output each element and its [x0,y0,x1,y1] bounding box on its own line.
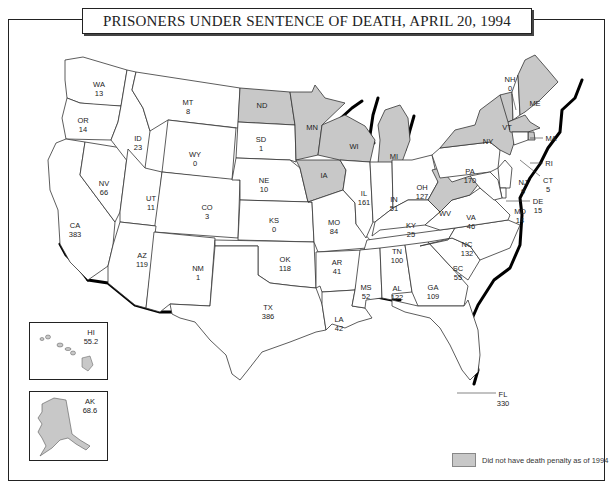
label-RI-abbr: RI [545,159,553,168]
label-AL-value: 122 [391,293,404,302]
label-MD-value: 14 [516,216,524,225]
label-MT-abbr: MT [183,98,194,107]
label-NM-value: 1 [196,273,200,282]
label-MS-value: 52 [362,292,370,301]
label-PA-value: 170 [464,176,477,185]
label-WI-abbr: WI [349,142,358,151]
label-UT-value: 11 [147,203,155,212]
label-TN-abbr: TN [392,247,402,256]
label-NC-abbr: NC [462,240,473,249]
label-WY-abbr: WY [189,150,201,159]
label-NH-value: 0 [508,84,512,93]
label-DE-value: 15 [534,206,542,215]
label-NY-abbr: NY [483,137,493,146]
state-NM[interactable] [146,232,215,312]
label-CO-value: 3 [205,212,209,221]
label-OR-value: 14 [79,125,87,134]
state-WI[interactable] [318,115,375,162]
label-WA-value: 13 [95,89,103,98]
label-MS-abbr: MS [360,283,371,292]
label-UT-abbr: UT [146,194,156,203]
label-HI-abbr: HI [87,328,95,337]
label-NC-value: 132 [461,249,474,258]
label-NJ-abbr: NJ [518,178,527,187]
label-MA-abbr: MA [545,134,556,143]
state-CO[interactable] [154,172,240,238]
label-VA-value: 46 [467,222,475,231]
label-SC-abbr: SC [453,264,464,273]
label-AR-abbr: AR [332,258,343,267]
label-TX-abbr: TX [263,303,273,312]
label-KS-abbr: KS [269,216,279,225]
label-VA-abbr: VA [466,213,475,222]
state-RI[interactable] [528,132,535,140]
label-OK-value: 118 [279,264,291,273]
label-MD-abbr: MD [514,207,526,216]
label-ME-abbr: ME [529,99,540,108]
label-OH-abbr: OH [416,183,427,192]
label-WA-abbr: WA [93,80,105,89]
label-NE-abbr: NE [259,176,269,185]
label-IL-value: 161 [358,198,371,207]
label-AR-value: 41 [333,267,341,276]
label-AL-abbr: AL [392,284,401,293]
label-ID-abbr: ID [134,134,142,143]
label-OH-value: 127 [416,192,429,201]
label-HI-value: 55.2 [84,337,99,346]
state-NE[interactable] [232,158,308,202]
label-FL-abbr: FL [499,390,508,399]
label-AK-abbr: AK [85,397,95,406]
label-MI-abbr: MI [390,152,398,161]
label-NM-abbr: NM [192,264,204,273]
legend-label: Did not have death penalty as of 1994 [482,456,608,465]
label-KS-value: 0 [272,225,276,234]
label-CO-abbr: CO [201,203,212,212]
label-KY-value: 25 [407,230,415,239]
label-CA-abbr: CA [70,221,80,230]
label-PA-abbr: PA [465,167,474,176]
label-ND-abbr: ND [257,101,268,110]
label-CT-value: 5 [546,185,550,194]
legend: Did not have death penalty as of 1994 [452,453,608,467]
label-IN-value: 51 [390,204,398,213]
label-IN-abbr: IN [390,195,398,204]
label-MO-value: 84 [330,227,338,236]
label-GA-abbr: GA [428,283,439,292]
label-DE-abbr: DE [533,197,543,206]
label-TN-value: 100 [391,256,404,265]
label-KY-abbr: KY [406,221,416,230]
hawaii-inset: HI 55.2 [29,322,108,380]
label-SD-value: 1 [259,144,263,153]
state-FL[interactable] [392,300,480,380]
label-IL-abbr: IL [361,189,367,198]
label-LA-abbr: LA [334,315,343,324]
label-CT-abbr: CT [543,176,553,185]
label-NJ-value: 9 [521,187,525,196]
label-NE-value: 10 [260,185,268,194]
label-WY-value: 0 [193,159,197,168]
label-WV-abbr: WV [439,209,451,218]
label-GA-value: 109 [427,292,440,301]
state-CT[interactable] [512,132,528,145]
label-IA-abbr: IA [320,171,327,180]
label-FL-value: 330 [497,399,510,408]
hawaii-shape: HI 55.2 [30,323,109,381]
label-CA-value: 383 [69,230,82,239]
label-OK-abbr: OK [280,255,291,264]
label-NV-value: 66 [100,188,108,197]
label-SC-value: 55 [454,273,462,282]
state-NJ[interactable] [498,160,512,188]
label-ID-value: 23 [134,143,142,152]
label-OR-abbr: OR [77,116,89,125]
label-SD-abbr: SD [256,135,267,144]
label-AZ-abbr: AZ [137,251,147,260]
label-AK-value: 68.6 [83,406,98,415]
legend-swatch [452,453,476,467]
label-NH-abbr: NH [505,75,516,84]
label-AZ-value: 119 [136,260,148,269]
label-TX-value: 386 [262,312,275,321]
label-MN-abbr: MN [306,123,318,132]
label-MO-abbr: MO [328,218,340,227]
label-NV-abbr: NV [99,179,109,188]
label-VT-abbr: VT [502,123,512,132]
